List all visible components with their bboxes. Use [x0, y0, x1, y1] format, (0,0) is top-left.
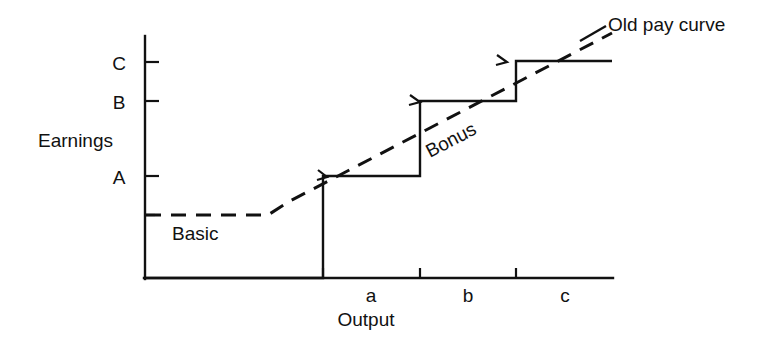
chart-figure: Earnings C B A a b c Output Basic Bonus … — [0, 0, 777, 344]
y-tick-label-a: A — [113, 167, 126, 188]
x-tick-label-b: b — [463, 285, 474, 306]
annotation-basic: Basic — [172, 223, 218, 244]
step-pay-chart-svg: Earnings C B A a b c Output Basic Bonus … — [0, 0, 777, 344]
y-tick-label-b: B — [113, 92, 126, 113]
annotation-old-pay-curve: Old pay curve — [608, 14, 725, 35]
x-tick-label-c: c — [560, 285, 570, 306]
y-axis-title: Earnings — [38, 130, 113, 151]
y-tick-label-c: C — [112, 53, 126, 74]
x-axis-title: Output — [337, 309, 395, 330]
x-tick-label-a: a — [366, 285, 377, 306]
